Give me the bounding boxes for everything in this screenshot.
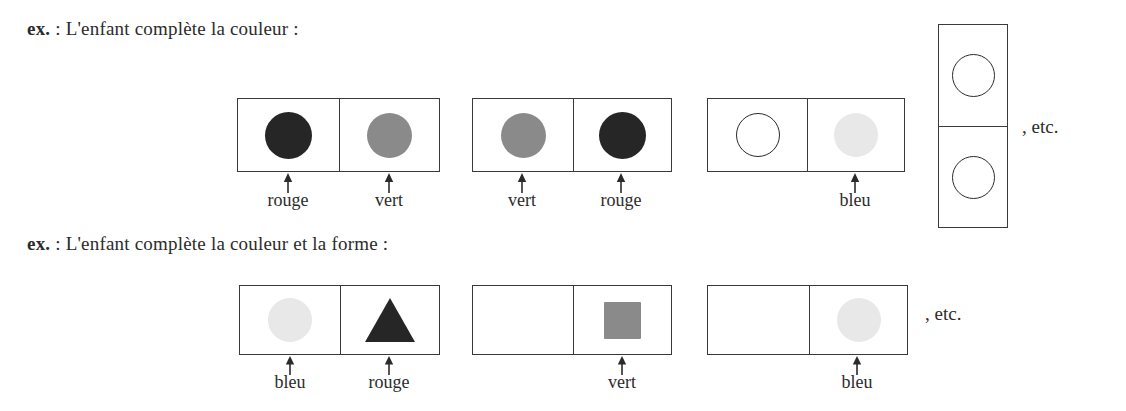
cell-row2-2-left[interactable]: [473, 286, 573, 354]
cell-row2-3-left[interactable]: [708, 286, 809, 354]
circle-outline-icon: [952, 156, 995, 199]
circle-icon: [837, 298, 881, 342]
circle-icon: [834, 113, 878, 157]
prompt-prefix: ex.: [27, 18, 50, 39]
cell-row1-1-left[interactable]: [238, 99, 339, 171]
etc-note-row1: , etc.: [1022, 116, 1058, 137]
label-row1-1-left: rouge: [268, 190, 309, 210]
cell-row2-1-right[interactable]: [340, 286, 438, 354]
prompt-exercise-color-shape: ex. : L'enfant complète la couleur et la…: [27, 233, 388, 255]
label-row2-2-right: vert: [608, 372, 636, 392]
label-row1-1-right: vert: [375, 190, 403, 210]
square-icon: [604, 302, 641, 339]
vertical-pair-row1[interactable]: [938, 24, 1008, 228]
pair-row1-1[interactable]: [237, 98, 440, 172]
circle-icon: [367, 113, 412, 158]
cell-row1-2-right[interactable]: [573, 99, 671, 171]
cell-row1-3-left[interactable]: [708, 99, 807, 171]
cell-row2-2-right[interactable]: [573, 286, 671, 354]
pair-row2-3[interactable]: [707, 285, 908, 355]
cell-row1-3-right[interactable]: [807, 99, 904, 171]
label-row2-3-right: bleu: [842, 372, 873, 392]
prompt-prefix: ex.: [27, 233, 50, 254]
cell-row2-1-left[interactable]: [240, 286, 340, 354]
triangle-icon: [365, 298, 415, 342]
cell-vertical-top[interactable]: [939, 25, 1007, 126]
label-row1-2-left: vert: [508, 190, 536, 210]
circle-outline-icon: [952, 54, 995, 97]
cell-vertical-bottom[interactable]: [939, 126, 1007, 227]
prompt-body: : L'enfant complète la couleur :: [50, 18, 298, 39]
pair-row1-2[interactable]: [472, 98, 672, 172]
circle-icon: [599, 112, 646, 159]
circle-outline-icon: [736, 113, 780, 157]
label-row2-1-right: rouge: [369, 372, 410, 392]
etc-note-row2: , etc.: [925, 303, 961, 324]
circle-icon: [501, 113, 546, 158]
prompt-body: : L'enfant complète la couleur et la for…: [50, 233, 388, 254]
label-row1-2-right: rouge: [601, 190, 642, 210]
prompt-exercise-color: ex. : L'enfant complète la couleur :: [27, 18, 299, 40]
circle-icon: [268, 298, 312, 342]
cell-row1-1-right[interactable]: [339, 99, 439, 171]
label-row1-3-right: bleu: [840, 190, 871, 210]
label-row2-1-left: bleu: [275, 372, 306, 392]
cell-row2-3-right[interactable]: [809, 286, 907, 354]
pair-row1-3[interactable]: [707, 98, 905, 172]
worksheet-page: ex. : L'enfant complète la couleur : rou…: [0, 0, 1126, 411]
cell-row1-2-left[interactable]: [473, 99, 573, 171]
pair-row2-2[interactable]: [472, 285, 672, 355]
pair-row2-1[interactable]: [239, 285, 440, 355]
circle-icon: [265, 112, 312, 159]
